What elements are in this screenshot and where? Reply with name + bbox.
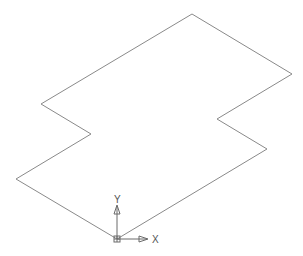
drawing-viewport[interactable]: Y X [0, 0, 303, 256]
drawing-canvas[interactable]: Y X [0, 0, 303, 256]
x-axis-label: X [152, 234, 159, 245]
isometric-outline[interactable] [16, 14, 292, 239]
y-axis-label: Y [114, 194, 121, 205]
